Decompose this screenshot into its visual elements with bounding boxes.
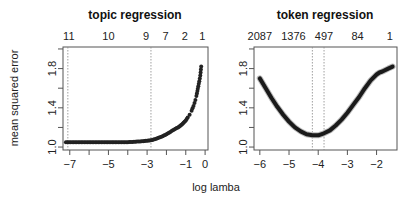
x-tick-label: −2 (370, 158, 383, 170)
x-tick-label: −3 (141, 158, 154, 170)
chart-title: topic regression (88, 8, 181, 22)
top-axis-label: 9 (143, 30, 149, 42)
figure: topic regression−7−5−3−101.01.41.8111097… (0, 0, 409, 207)
top-axis-label: 2 (182, 30, 188, 42)
data-point (193, 98, 197, 102)
top-axis-label: 11 (63, 30, 74, 42)
x-tick-label: −6 (254, 158, 267, 170)
top-axis-label: 1 (199, 30, 205, 42)
x-tick-label: −1 (179, 158, 192, 170)
x-tick-label: −5 (102, 158, 115, 170)
y-tick-label: 1.8 (237, 61, 249, 76)
y-tick-label: 1.8 (46, 61, 58, 76)
chart-canvas: topic regression−7−5−3−101.01.41.8111097… (0, 0, 409, 207)
top-axis-label: 10 (102, 30, 114, 42)
panel-token-regression: token regression−6−5−4−3−21.01.41.820871… (237, 8, 397, 170)
y-tick-label: 1.4 (237, 100, 249, 115)
top-axis-label: 1376 (281, 30, 305, 42)
plot-frame (63, 47, 208, 150)
x-tick-label: −5 (283, 158, 296, 170)
panel-topic-regression: topic regression−7−5−3−101.01.41.8111097… (46, 8, 208, 170)
x-tick-label: −7 (63, 158, 76, 170)
mse-curve (260, 67, 393, 136)
data-point (199, 65, 203, 69)
chart-title: token regression (277, 8, 374, 22)
y-axis-label: mean squared error (8, 49, 20, 146)
y-tick-label: 1.0 (237, 139, 249, 154)
x-axis-label: log lamba (192, 181, 241, 193)
top-axis-label: 1 (387, 30, 393, 42)
x-tick-label: −4 (312, 158, 325, 170)
x-tick-label: 0 (202, 158, 208, 170)
top-axis-label: 84 (351, 30, 363, 42)
top-axis-label: 7 (162, 30, 168, 42)
top-axis-label: 2087 (248, 30, 272, 42)
top-axis-label: 497 (315, 30, 333, 42)
y-tick-label: 1.0 (46, 139, 58, 154)
data-point (188, 113, 192, 117)
y-tick-label: 1.4 (46, 100, 58, 115)
x-tick-label: −3 (341, 158, 354, 170)
